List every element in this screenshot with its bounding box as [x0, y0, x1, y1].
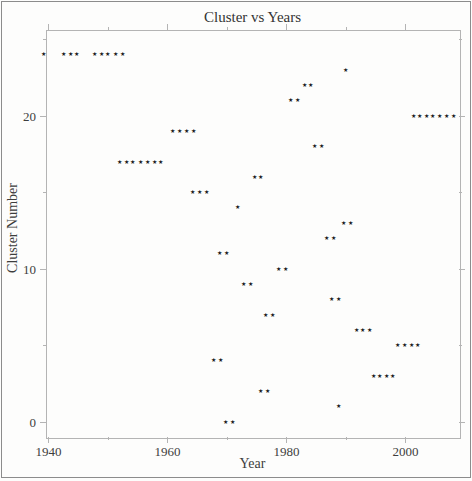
data-point-marker: ★: [61, 51, 66, 57]
x-major-tick: [48, 437, 49, 443]
data-point-marker: ★: [145, 158, 150, 164]
data-point-marker: ★: [319, 143, 324, 149]
y-major-tick-right: [459, 422, 465, 423]
data-point-marker: ★: [218, 357, 223, 363]
data-point-marker: ★: [424, 113, 429, 119]
data-point-marker: ★: [354, 327, 359, 333]
data-point-marker: ★: [367, 327, 372, 333]
y-minor-tick-right: [459, 39, 462, 40]
data-point-marker: ★: [117, 158, 122, 164]
y-minor-tick: [43, 39, 46, 40]
data-point-marker: ★: [341, 220, 346, 226]
data-point-marker: ★: [409, 342, 414, 348]
data-point-marker: ★: [211, 357, 216, 363]
data-point-marker: ★: [360, 327, 365, 333]
data-point-marker: ★: [417, 113, 422, 119]
data-point-marker: ★: [224, 250, 229, 256]
x-major-tick: [405, 437, 406, 443]
data-point-marker: ★: [120, 51, 125, 57]
data-point-marker: ★: [170, 128, 175, 134]
y-major-tick: [40, 422, 46, 423]
data-point-marker: ★: [158, 158, 163, 164]
data-point-marker: ★: [390, 373, 395, 379]
data-point-marker: ★: [223, 419, 228, 425]
x-axis-label: Year: [46, 456, 459, 472]
data-point-marker: ★: [258, 388, 263, 394]
data-point-marker: ★: [302, 82, 307, 88]
data-point-marker: ★: [395, 342, 400, 348]
data-point-marker: ★: [437, 113, 442, 119]
data-point-marker: ★: [197, 189, 202, 195]
data-point-marker: ★: [130, 158, 135, 164]
data-point-marker: ★: [184, 128, 189, 134]
plot-area: [46, 30, 461, 439]
data-point-marker: ★: [248, 281, 253, 287]
x-major-tick-top: [48, 24, 49, 30]
x-major-tick: [167, 437, 168, 443]
x-minor-tick: [108, 437, 109, 440]
data-point-marker: ★: [348, 220, 353, 226]
chart-title: Cluster vs Years: [46, 9, 459, 26]
x-minor-tick-top: [346, 27, 347, 30]
data-point-marker: ★: [283, 266, 288, 272]
x-minor-tick-top: [227, 27, 228, 30]
data-point-marker: ★: [99, 51, 104, 57]
y-minor-tick: [43, 345, 46, 346]
data-point-marker: ★: [191, 128, 196, 134]
x-major-tick: [286, 437, 287, 443]
y-tick-label: 0: [4, 415, 36, 428]
y-major-tick-right: [459, 116, 465, 117]
data-point-marker: ★: [252, 174, 257, 180]
y-tick-label: 20: [4, 109, 36, 122]
data-point-marker: ★: [92, 51, 97, 57]
data-point-marker: ★: [336, 296, 341, 302]
x-minor-tick: [346, 437, 347, 440]
y-major-tick-right: [459, 269, 465, 270]
data-point-marker: ★: [377, 373, 382, 379]
y-minor-tick: [43, 192, 46, 193]
y-major-tick: [40, 116, 46, 117]
data-point-marker: ★: [371, 373, 376, 379]
x-major-tick-top: [286, 24, 287, 30]
data-point-marker: ★: [105, 51, 110, 57]
data-point-marker: ★: [230, 419, 235, 425]
data-point-marker: ★: [204, 189, 209, 195]
data-point-marker: ★: [258, 174, 263, 180]
data-point-marker: ★: [415, 342, 420, 348]
data-point-marker: ★: [402, 342, 407, 348]
y-axis-label: Cluster Number: [5, 183, 21, 273]
data-point-marker: ★: [288, 97, 293, 103]
data-point-marker: ★: [113, 51, 118, 57]
data-point-marker: ★: [177, 128, 182, 134]
data-point-marker: ★: [324, 235, 329, 241]
data-point-marker: ★: [74, 51, 79, 57]
x-major-tick-top: [405, 24, 406, 30]
data-point-marker: ★: [270, 311, 275, 317]
y-minor-tick-right: [459, 345, 462, 346]
data-point-marker: ★: [312, 143, 317, 149]
data-point-marker: ★: [451, 113, 456, 119]
data-point-marker: ★: [217, 250, 222, 256]
scatter-plot-figure: Cluster vs Years 194019601980200001020 ★…: [0, 0, 472, 481]
data-point-marker: ★: [331, 235, 336, 241]
data-point-marker: ★: [430, 113, 435, 119]
y-major-tick: [40, 269, 46, 270]
data-point-marker: ★: [336, 403, 341, 409]
data-point-marker: ★: [235, 204, 240, 210]
data-point-marker: ★: [138, 158, 143, 164]
y-minor-tick-right: [459, 192, 462, 193]
data-point-marker: ★: [343, 67, 348, 73]
data-point-marker: ★: [444, 113, 449, 119]
data-point-marker: ★: [411, 113, 416, 119]
data-point-marker: ★: [265, 388, 270, 394]
data-point-marker: ★: [263, 311, 268, 317]
data-point-marker: ★: [308, 82, 313, 88]
x-minor-tick: [227, 437, 228, 440]
data-point-marker: ★: [152, 158, 157, 164]
data-point-marker: ★: [329, 296, 334, 302]
data-point-marker: ★: [241, 281, 246, 287]
data-point-marker: ★: [295, 97, 300, 103]
data-point-marker: ★: [276, 266, 281, 272]
x-major-tick-top: [167, 24, 168, 30]
data-point-marker: ★: [68, 51, 73, 57]
